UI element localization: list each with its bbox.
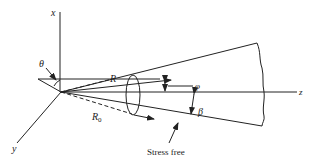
stress-free-leader — [169, 123, 178, 143]
theta-leader — [46, 68, 56, 80]
y-axis — [17, 92, 61, 143]
cone-wavy-end — [257, 43, 264, 126]
z-axis-label: z — [298, 87, 303, 97]
R0-label: R0 — [91, 111, 102, 124]
beta-label: β — [197, 106, 203, 117]
beta-dimension — [191, 94, 194, 114]
x-axis-label: x — [50, 7, 56, 18]
phi-label: φ — [195, 81, 200, 91]
theta-arc — [54, 80, 60, 86]
cone-cross-section — [126, 75, 140, 115]
theta-label: θ — [39, 58, 44, 69]
cone-upper-edge — [61, 43, 257, 92]
R-label: R — [109, 73, 116, 84]
stress-free-label: Stress free — [147, 147, 185, 157]
y-axis-label: y — [11, 143, 17, 154]
R0-arrow — [134, 115, 154, 119]
cone-diagram: x z y θ R φ β R0 Stress free — [0, 0, 314, 164]
